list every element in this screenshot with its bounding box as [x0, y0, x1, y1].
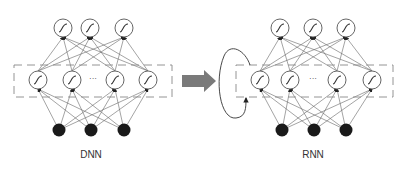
dnn-ellipsis: ··· — [89, 74, 97, 83]
diagram-canvas: ··· ··· DNN RNN — [0, 0, 401, 172]
transform-arrow-icon — [182, 70, 216, 92]
hidden-output-connections — [38, 37, 148, 71]
rnn-input-nodes — [276, 124, 353, 137]
network-diagrams — [0, 0, 401, 172]
dnn-label: DNN — [80, 149, 102, 160]
rnn-ellipsis: ··· — [309, 74, 317, 83]
rnn-output-nodes — [271, 19, 355, 37]
recurrent-loop — [219, 49, 250, 118]
hidden-output-connections — [260, 37, 372, 71]
dnn-input-nodes — [53, 124, 131, 137]
dnn-output-nodes — [54, 19, 133, 37]
rnn-label: RNN — [302, 149, 324, 160]
